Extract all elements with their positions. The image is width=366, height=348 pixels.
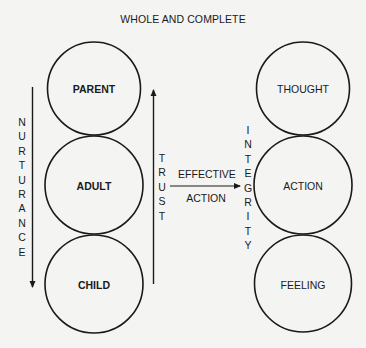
nurturance-letter: C bbox=[18, 230, 26, 244]
nurturance-label: NURTURANCE bbox=[18, 115, 26, 259]
action-label: ACTION bbox=[186, 192, 226, 204]
trust-letter: S bbox=[158, 194, 165, 208]
trust-letter: R bbox=[158, 165, 166, 179]
nurturance-letter: U bbox=[18, 129, 26, 143]
nurturance-letter: U bbox=[18, 173, 26, 187]
integrity-letter: N bbox=[244, 137, 252, 151]
integrity-letter: I bbox=[247, 123, 250, 137]
nurturance-letter: A bbox=[18, 201, 25, 215]
integrity-letter: R bbox=[244, 195, 252, 209]
trust-letter: T bbox=[159, 151, 165, 165]
nurturance-letter: R bbox=[18, 187, 26, 201]
label-feeling: FEELING bbox=[253, 279, 353, 291]
integrity-letter: I bbox=[247, 209, 250, 223]
integrity-letter: E bbox=[244, 166, 251, 180]
integrity-letter: Y bbox=[244, 238, 251, 252]
trust-label: TRUST bbox=[158, 151, 166, 223]
label-child: CHILD bbox=[44, 279, 144, 291]
label-action: ACTION bbox=[253, 180, 353, 192]
effective-label: EFFECTIVE bbox=[178, 168, 236, 180]
integrity-letter: G bbox=[244, 181, 252, 195]
label-parent: PARENT bbox=[44, 83, 144, 95]
integrity-letter: T bbox=[245, 152, 251, 166]
nurturance-letter: R bbox=[18, 144, 26, 158]
nurturance-letter: N bbox=[18, 115, 26, 129]
nurturance-letter: T bbox=[19, 158, 25, 172]
nurturance-letter: N bbox=[18, 216, 26, 230]
trust-letter: U bbox=[158, 180, 166, 194]
nurturance-letter: E bbox=[18, 245, 25, 259]
integrity-label: INTEGRITY bbox=[244, 123, 252, 253]
integrity-letter: T bbox=[245, 224, 251, 238]
trust-letter: T bbox=[159, 209, 165, 223]
label-adult: ADULT bbox=[44, 180, 144, 192]
label-thought: THOUGHT bbox=[253, 83, 353, 95]
